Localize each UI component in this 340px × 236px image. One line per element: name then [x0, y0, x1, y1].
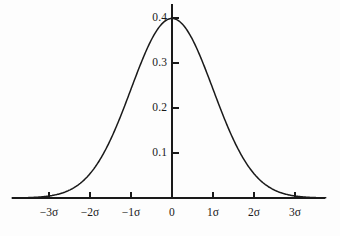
x-tick-label: 2σ — [248, 207, 260, 219]
x-tick-label: 3σ — [289, 207, 301, 219]
plot-area — [0, 0, 340, 236]
x-tick-label: 1σ — [207, 207, 219, 219]
x-tick-label: −3σ — [40, 207, 59, 219]
y-tick-label: 0.4 — [152, 12, 167, 24]
normal-distribution-figure: −3σ−2σ−1σ01σ2σ3σ 0.10.20.30.4 — [0, 0, 340, 236]
y-tick-label: 0.3 — [152, 57, 167, 69]
gaussian-curve — [12, 18, 326, 197]
x-tick-label: −1σ — [122, 207, 141, 219]
x-tick-label: 0 — [169, 207, 175, 219]
y-tick-label: 0.1 — [152, 147, 167, 159]
y-axis-ticks — [172, 18, 179, 153]
y-tick-label: 0.2 — [152, 102, 167, 114]
x-tick-label: −2σ — [81, 207, 100, 219]
